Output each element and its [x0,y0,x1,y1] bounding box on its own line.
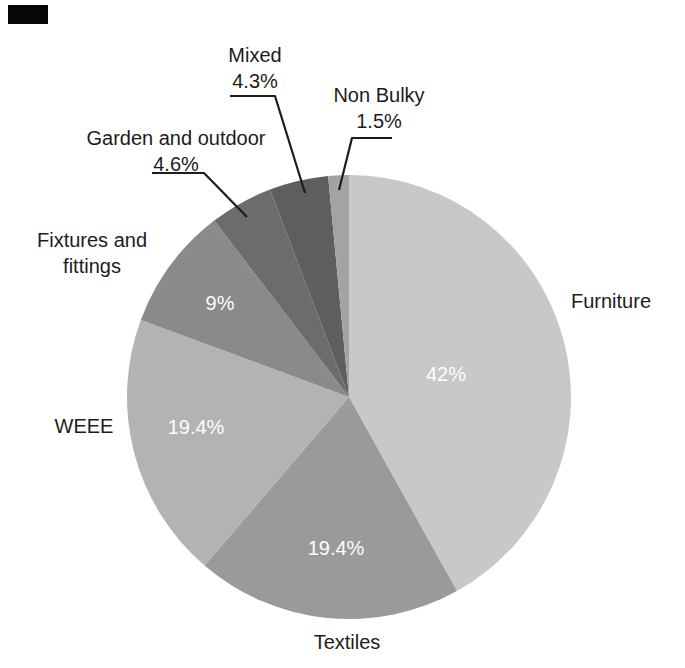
label-textiles-name: Textiles [314,631,381,653]
label-garden-value: 4.6% [86,151,265,177]
label-mixed-value: 4.3% [228,68,281,94]
pct-label-fixtures: 9% [206,290,235,316]
label-mixed: Mixed 4.3% [228,42,281,94]
pct-label-weee: 19.4% [168,414,225,440]
label-fixtures-name: Fixtures and fittings [37,229,147,277]
pct-label-furniture: 42% [426,361,466,387]
label-weee-name: WEEE [55,415,114,437]
label-furniture-name: Furniture [571,290,651,312]
pie-chart-figure: Mixed 4.3% Non Bulky 1.5% Garden and out… [0,0,685,668]
pct-label-textiles: 19.4% [308,535,365,561]
label-weee: WEEE [55,413,114,439]
label-furniture: Furniture [571,288,651,314]
label-non-bulky: Non Bulky 1.5% [333,82,424,134]
label-non-bulky-value: 1.5% [333,108,424,134]
label-textiles: Textiles [314,629,381,655]
label-mixed-name: Mixed [228,42,281,68]
label-fixtures-and-fittings: Fixtures and fittings [25,227,160,279]
label-garden-and-outdoor: Garden and outdoor 4.6% [86,125,265,177]
label-non-bulky-name: Non Bulky [333,82,424,108]
label-garden-name: Garden and outdoor [86,125,265,151]
